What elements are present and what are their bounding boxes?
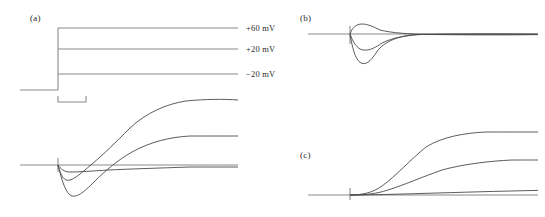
voltage-label-plus60: +60 mV (246, 23, 275, 33)
trace-current-plus20 (58, 136, 238, 196)
panel-label-c: (c) (300, 150, 311, 160)
trace-sodium-inward-large (350, 34, 538, 64)
time-scale-bar (58, 96, 86, 102)
voltage-label-minus20: −20 mV (246, 69, 275, 79)
panel-c-potassium-traces (308, 132, 538, 200)
trace-potassium-plus20 (350, 160, 538, 195)
trace-current-minus20 (58, 165, 238, 172)
voltage-label-plus20: +20 mV (246, 44, 275, 54)
panel-a-current-traces (20, 99, 238, 196)
trace-sodium-outward-plus60 (350, 24, 538, 35)
trace-sodium-inward-small (350, 34, 538, 50)
panel-label-a: (a) (30, 13, 41, 23)
panel-label-b: (b) (300, 13, 311, 23)
panel-b-sodium-traces (308, 24, 538, 64)
trace-potassium-plus60 (350, 132, 538, 195)
panel-a-voltage-command (20, 28, 238, 102)
